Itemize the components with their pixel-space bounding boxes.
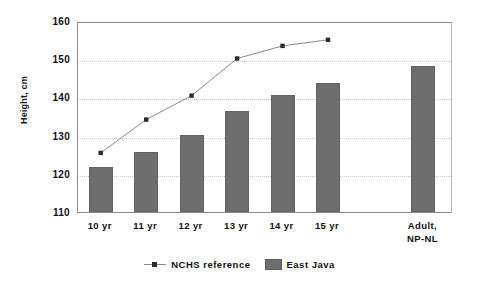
legend-item-nchs-reference: NCHS reference	[144, 259, 250, 270]
y-axis-tick-130: 130	[36, 131, 70, 142]
y-axis-tick-110: 110	[36, 207, 70, 218]
square-swatch-icon	[265, 259, 282, 270]
nchs-marker-5	[326, 38, 330, 42]
nchs-line-path	[101, 40, 328, 153]
x-axis-tick-6: Adult, NP-NL	[392, 219, 452, 245]
nchs-marker-3	[235, 56, 239, 60]
line-marker-icon	[144, 260, 166, 269]
chart-legend: NCHS reference East Java	[0, 259, 479, 270]
legend-item-east-java: East Java	[265, 259, 335, 270]
legend-label-east-java: East Java	[287, 259, 335, 270]
line-series-nchs-reference	[78, 23, 453, 214]
legend-label-nchs-reference: NCHS reference	[171, 259, 250, 270]
y-axis-tick-120: 120	[36, 169, 70, 180]
y-axis-tick-150: 150	[36, 54, 70, 65]
y-axis-tick-140: 140	[36, 92, 70, 103]
nchs-marker-1	[144, 117, 148, 121]
nchs-marker-0	[99, 151, 103, 155]
plot-area	[77, 22, 452, 213]
y-axis-tick-160: 160	[36, 16, 70, 27]
nchs-marker-2	[189, 93, 193, 97]
y-axis-title: Height, cm	[19, 55, 29, 145]
x-axis-tick-5: 15 yr	[297, 219, 357, 232]
chart-container: Height, cm 110120130140150160 10 yr11 yr…	[0, 0, 479, 289]
nchs-marker-4	[280, 44, 284, 48]
